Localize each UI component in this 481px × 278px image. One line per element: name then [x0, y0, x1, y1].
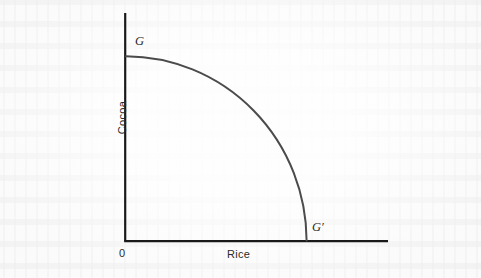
point-label-g-prime: G′ — [312, 221, 324, 234]
ppf-figure: Cocoa Rice 0 G G′ — [0, 0, 481, 278]
x-axis-label: Rice — [227, 249, 250, 260]
origin-label: 0 — [119, 248, 125, 259]
point-label-g: G — [135, 35, 144, 48]
y-axis-label: Cocoa — [117, 101, 128, 134]
ppf-curve — [126, 56, 307, 240]
plot-canvas — [0, 0, 481, 278]
